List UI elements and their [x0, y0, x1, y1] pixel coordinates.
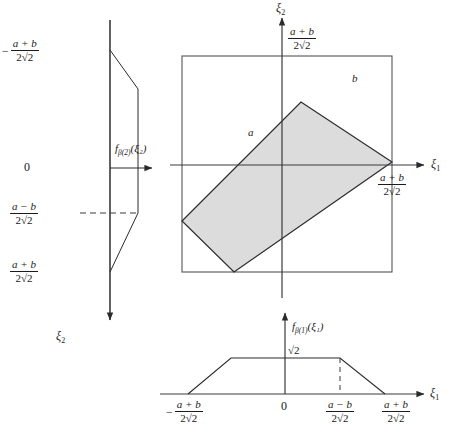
bottom-tick-knee-den: 2√2 [326, 412, 354, 424]
main-x-axis-name: ξ1 [431, 158, 440, 173]
bottom-tick-left-num: a + b [175, 399, 203, 412]
left-tick-mid-den: 2√2 [10, 214, 38, 226]
bottom-tick-right-den: 2√2 [382, 412, 410, 424]
left-density-curve [110, 50, 138, 272]
left-tick-mid: a − b 2√2 [10, 201, 38, 226]
bottom-tick-right-num: a + b [382, 399, 410, 412]
bottom-function-sub: β(1) [295, 326, 307, 335]
left-tick-top-num: a + b [11, 38, 39, 51]
bottom-tick-left: − a + b 2√2 [166, 399, 203, 424]
bottom-tick-knee: a − b 2√2 [326, 399, 354, 424]
bottom-tick-left-den: 2√2 [175, 412, 203, 424]
main-y-axis-sub: 2 [281, 8, 285, 17]
main-y-tick-den: 2√2 [288, 39, 316, 51]
bottom-density-curve [188, 358, 385, 394]
left-function-label: fβ(2)(ξ₂) [115, 143, 146, 157]
figure-root: − a + b 2√2 0 a − b 2√2 a + b 2√2 fβ(2)(… [0, 0, 451, 436]
left-tick-top-sign: − [2, 45, 11, 57]
main-panel-graphics [170, 18, 424, 298]
main-y-axis-name: ξ2 [276, 2, 285, 17]
bottom-function-label: fβ(1)(ξ₁) [292, 321, 323, 335]
left-axis-name: ξ2 [56, 330, 65, 345]
left-panel-graphics [80, 20, 152, 320]
left-function-sub: β(2) [118, 148, 130, 157]
main-y-tick-num: a + b [288, 26, 316, 39]
figure-canvas [0, 0, 451, 436]
bottom-peak-label: √2 [288, 345, 300, 356]
left-tick-bottom-den: 2√2 [10, 272, 38, 284]
bottom-axis-sub: 1 [435, 393, 439, 402]
left-origin-label: 0 [24, 161, 30, 173]
main-x-tick-num: a + b [378, 172, 406, 185]
bottom-tick-right: a + b 2√2 [382, 399, 410, 424]
bottom-tick-left-sign: − [166, 406, 175, 418]
main-side-b-label: b [352, 73, 358, 84]
main-side-a-label: a [248, 127, 254, 138]
main-y-tick: a + b 2√2 [288, 26, 316, 51]
left-tick-bottom-num: a + b [10, 259, 38, 272]
left-tick-top: − a + b 2√2 [2, 38, 39, 63]
bottom-origin-label: 0 [281, 400, 287, 412]
left-tick-top-den: 2√2 [11, 51, 39, 63]
bottom-tick-knee-num: a − b [326, 399, 354, 412]
left-tick-bottom: a + b 2√2 [10, 259, 38, 284]
main-x-axis-sub: 1 [436, 164, 440, 173]
bottom-axis-name: ξ1 [430, 387, 439, 402]
rotated-rectangle-region [182, 102, 392, 272]
main-x-tick: a + b 2√2 [378, 172, 406, 197]
left-function-arg: (ξ₂) [131, 142, 147, 154]
bottom-function-arg: (ξ₁) [308, 320, 324, 332]
left-tick-mid-num: a − b [10, 201, 38, 214]
left-axis-sub: 2 [61, 336, 65, 345]
main-x-tick-den: 2√2 [378, 185, 406, 197]
